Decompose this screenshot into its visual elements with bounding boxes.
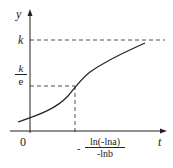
inflection-y-label: k e [15,62,27,87]
x-axis-label: t [158,136,161,148]
y-axis-label: y [16,8,21,20]
y-axis-arrow-icon [28,9,33,16]
inflection-x-prefix: - [77,143,80,154]
origin-label: 0 [20,136,26,148]
x-axis-arrow-icon [160,129,167,134]
inflection-x-label: ln(-lna) -lnb [85,136,125,159]
gompertz-curve [18,43,145,122]
asymptote-label: k [18,34,23,46]
